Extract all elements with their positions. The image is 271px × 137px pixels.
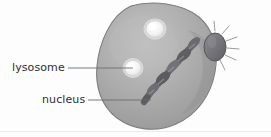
lysosome-vesicle-upper bbox=[144, 19, 167, 40]
centrosome-body bbox=[204, 33, 226, 61]
label-nucleus: nucleus bbox=[42, 94, 85, 105]
cell-diagram-figure: lysosome nucleus bbox=[0, 0, 271, 137]
label-lysosome: lysosome bbox=[12, 62, 65, 73]
